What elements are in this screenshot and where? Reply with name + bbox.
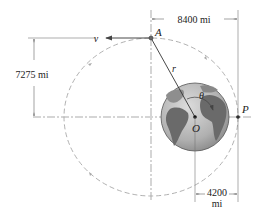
dimension-4200-unit: mi [212,198,223,209]
dimension-4200-label: 4200 [207,187,227,198]
label-A: A [154,26,162,38]
label-v: v [94,33,99,44]
orbit-diagram: 8400 mi 7275 mi 4200 mi A v r θ P O [0,0,263,214]
label-O: O [192,122,200,134]
label-P: P [241,103,249,115]
label-r: r [172,63,176,74]
label-theta: θ [199,90,204,101]
dimension-4200: 4200 mi [196,187,237,209]
dimension-7275-label: 7275 mi [15,69,48,80]
dimension-8400-label: 8400 mi [177,14,210,25]
dimension-7275: 7275 mi [15,39,48,116]
point-A-marker [149,36,153,40]
dimension-8400: 8400 mi [152,14,237,25]
